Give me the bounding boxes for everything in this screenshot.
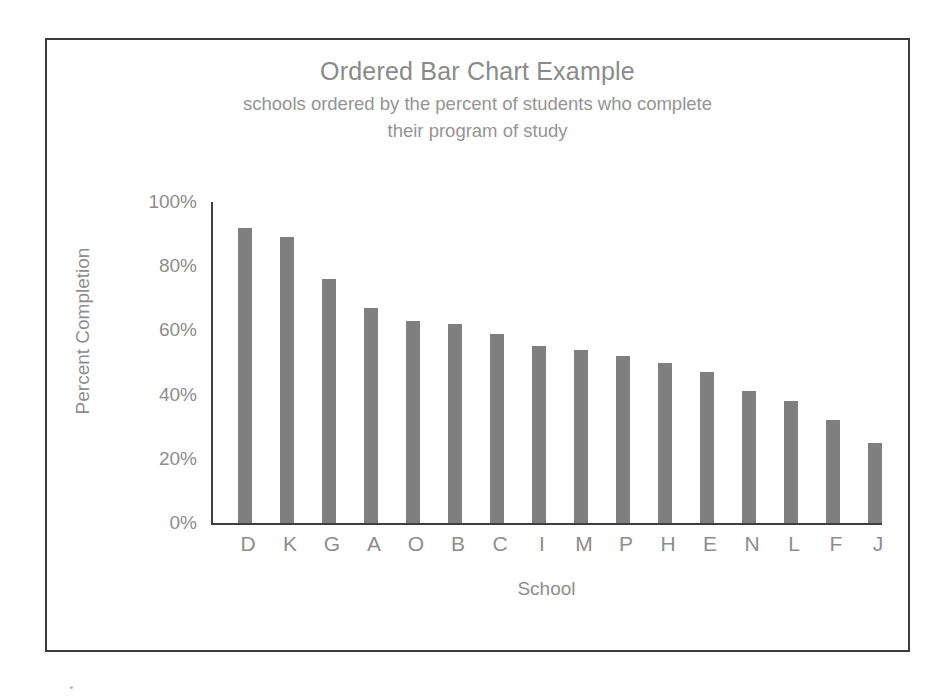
bar-L[interactable] — [784, 401, 798, 523]
bar-G[interactable] — [322, 279, 336, 523]
bar-A[interactable] — [364, 308, 378, 523]
bar-O[interactable] — [406, 321, 420, 523]
chart-subtitle-line-2: their program of study — [47, 118, 908, 145]
x-axis-tick-label: H — [647, 532, 689, 556]
bar-slot — [731, 202, 773, 523]
chart-subtitle: schools ordered by the percent of studen… — [47, 91, 908, 145]
x-axis-title: School — [211, 578, 882, 600]
x-axis-tick-label: P — [605, 532, 647, 556]
bar-slot — [395, 202, 437, 523]
bar-J[interactable] — [868, 443, 882, 523]
x-axis-tick-label: M — [563, 532, 605, 556]
bar-slot — [605, 202, 647, 523]
x-axis-tick-label: B — [437, 532, 479, 556]
bar-series — [211, 202, 882, 523]
bar-slot — [563, 202, 605, 523]
bar-F[interactable] — [826, 420, 840, 523]
x-axis-tick-label: C — [479, 532, 521, 556]
bar-slot — [815, 202, 857, 523]
bar-slot — [773, 202, 815, 523]
bar-E[interactable] — [700, 372, 714, 523]
bar-B[interactable] — [448, 324, 462, 523]
y-axis-tick-label: 40% — [159, 384, 197, 406]
x-axis-tick-label: N — [731, 532, 773, 556]
x-axis-tick-label: F — [815, 532, 857, 556]
bar-slot — [689, 202, 731, 523]
x-axis-tick-label: I — [521, 532, 563, 556]
bar-P[interactable] — [616, 356, 630, 523]
bar-H[interactable] — [658, 363, 672, 524]
bar-slot — [353, 202, 395, 523]
bar-I[interactable] — [532, 346, 546, 523]
y-axis-tick-label: 20% — [159, 448, 197, 470]
y-axis-tick-label: 80% — [159, 255, 197, 277]
chart-title-block: Ordered Bar Chart Example schools ordere… — [47, 56, 908, 145]
x-axis-tick-label: A — [353, 532, 395, 556]
bar-M[interactable] — [574, 350, 588, 523]
bar-slot — [227, 202, 269, 523]
x-axis-tick-labels: DKGAOBCIMPHENLFJ — [211, 532, 882, 568]
chart-subtitle-line-1: schools ordered by the percent of studen… — [47, 91, 908, 118]
bar-slot — [479, 202, 521, 523]
chart-frame: Ordered Bar Chart Example schools ordere… — [45, 38, 910, 652]
bar-slot — [269, 202, 311, 523]
y-axis-tick-label: 100% — [148, 191, 197, 213]
scan-artifact-dot — [70, 686, 73, 689]
y-axis-tick-labels: 0%20%40%60%80%100% — [47, 202, 205, 523]
bar-slot — [857, 202, 899, 523]
plot-area — [211, 202, 882, 523]
page-title: Ordered Bar Chart Example — [47, 56, 908, 87]
bar-K[interactable] — [280, 237, 294, 523]
x-axis-tick-label: L — [773, 532, 815, 556]
x-axis-tick-label: K — [269, 532, 311, 556]
bar-slot — [311, 202, 353, 523]
bar-D[interactable] — [238, 228, 252, 523]
bar-slot — [647, 202, 689, 523]
x-axis-tick-label: D — [227, 532, 269, 556]
bar-slot — [437, 202, 479, 523]
x-axis-tick-label: G — [311, 532, 353, 556]
y-axis-title: Percent Completion — [72, 221, 94, 441]
x-axis-tick-label: E — [689, 532, 731, 556]
y-axis-tick-label: 60% — [159, 319, 197, 341]
bar-C[interactable] — [490, 334, 504, 523]
x-axis-tick-label: J — [857, 532, 899, 556]
bar-N[interactable] — [742, 391, 756, 523]
x-axis-tick-label: O — [395, 532, 437, 556]
x-axis-line — [211, 523, 882, 525]
bar-slot — [521, 202, 563, 523]
y-axis-tick-label: 0% — [170, 512, 197, 534]
